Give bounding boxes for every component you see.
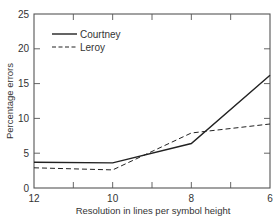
- y-tick-label: 25: [18, 9, 30, 20]
- legend: Courtney Leroy: [52, 29, 121, 53]
- series-line-courtney: [34, 75, 270, 163]
- legend-label-leroy: Leroy: [80, 42, 105, 53]
- x-tick-label: 12: [28, 193, 40, 204]
- x-tick-label: 6: [267, 193, 273, 204]
- x-tick-label: 8: [189, 193, 195, 204]
- y-axis-label: Percentage errors: [4, 63, 15, 139]
- y-tick-labels: 0510152025: [18, 9, 30, 194]
- x-axis-label: Resolution in lines per symbol height: [76, 205, 231, 216]
- y-tick-label: 20: [18, 43, 30, 54]
- x-tick-labels: 121086: [28, 193, 273, 204]
- data-series: [34, 75, 270, 170]
- y-tick-label: 0: [23, 183, 29, 194]
- y-tick-label: 15: [18, 78, 30, 89]
- x-tick-label: 10: [107, 193, 119, 204]
- line-chart: 121086 0510152025 Courtney Leroy Resolut…: [0, 0, 279, 220]
- legend-label-courtney: Courtney: [80, 29, 121, 40]
- y-tick-label: 10: [18, 113, 30, 124]
- y-tick-label: 5: [23, 148, 29, 159]
